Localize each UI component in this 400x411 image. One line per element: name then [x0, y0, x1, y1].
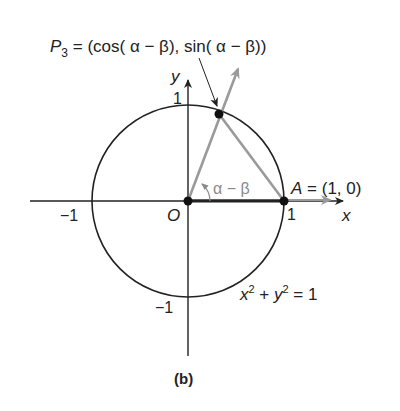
angle-label: α − β — [213, 180, 250, 197]
angle-arc — [202, 184, 210, 201]
tick-y-pos: 1 — [173, 90, 182, 107]
point-origin — [184, 197, 193, 206]
p3-pointer-arrow — [199, 58, 217, 106]
point-p3 — [215, 110, 224, 119]
origin-label: O — [167, 206, 180, 225]
tick-y-neg: −1 — [155, 299, 173, 316]
point-a-label: A = (1, 0) — [290, 179, 361, 198]
point-a — [280, 197, 289, 206]
figure-caption: (b) — [174, 370, 193, 387]
circle-equation: x2 + y2 = 1 — [239, 283, 317, 304]
p3-label: P3 = (cos( α − β), sin( α − β)) — [50, 37, 266, 60]
unit-circle-diagram: P3 = (cos( α − β), sin( α − β)) y x 1 −1… — [0, 0, 400, 411]
tick-x-neg: −1 — [60, 207, 78, 224]
x-axis-label: x — [341, 206, 351, 225]
y-axis-label: y — [170, 67, 181, 86]
tick-x-pos: 1 — [287, 206, 296, 223]
